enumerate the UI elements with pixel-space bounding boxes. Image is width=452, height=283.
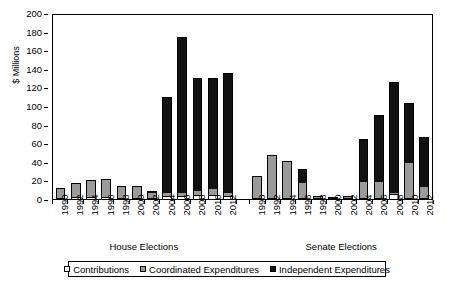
x-axis-label-slot: 2006 [372, 204, 387, 242]
bar-slot[interactable] [68, 15, 83, 199]
bar-segment-independent [404, 103, 414, 163]
bar-slot[interactable] [53, 15, 68, 199]
bar-slot[interactable] [175, 15, 190, 199]
stacked-bar[interactable] [177, 37, 187, 199]
legend-item[interactable]: Coordinated Expenditures [140, 264, 259, 275]
x-axis-tick-label: 2012 [228, 194, 238, 215]
stacked-bar[interactable] [162, 97, 172, 199]
x-axis-label-slot: 1998 [113, 204, 128, 242]
y-axis-tick-label: 100 [2, 102, 42, 112]
stacked-bar[interactable] [223, 73, 233, 199]
stacked-bar[interactable] [404, 103, 414, 199]
bar-segment-coordinated [267, 155, 277, 198]
bar-segment-coordinated [282, 161, 292, 198]
stacked-bar[interactable] [208, 78, 218, 199]
stacked-bar[interactable] [359, 139, 369, 199]
y-axis-tick-mark [44, 51, 48, 52]
y-axis-tick-mark [44, 144, 48, 145]
x-axis-label-slot: 2006 [174, 204, 189, 242]
stacked-bar[interactable] [193, 78, 203, 199]
bar-slot[interactable] [220, 15, 235, 199]
stacked-bar[interactable] [267, 155, 277, 199]
x-axis-label-slot: 2000 [326, 204, 341, 242]
y-axis-tick-label: 160 [2, 46, 42, 56]
y-axis-tick-mark [44, 126, 48, 127]
y-axis-tick-label: 20 [2, 177, 42, 187]
bar-slot[interactable] [356, 15, 371, 199]
x-axis-label-slot: 2008 [190, 204, 205, 242]
y-axis-tick-mark [44, 163, 48, 164]
legend-label: Coordinated Expenditures [149, 264, 259, 275]
bar-slot[interactable] [114, 15, 129, 199]
y-axis-tick-label: 60 [2, 139, 42, 149]
x-axis-label-slot: 2000 [128, 204, 143, 242]
legend-item[interactable]: Independent Expenditures [270, 264, 390, 275]
x-axis-label-slot: 1994 [280, 204, 295, 242]
bar-slot[interactable] [371, 15, 386, 199]
y-axis-tick-label: 140 [2, 65, 42, 75]
y-axis-tick-mark [44, 14, 48, 15]
bar-slot[interactable] [325, 15, 340, 199]
bar-slot[interactable] [386, 15, 401, 199]
white-square-icon [64, 266, 70, 272]
group-labels: House Elections Senate Elections [52, 241, 433, 255]
x-axis-label-slot: 2004 [356, 204, 371, 242]
legend-label: Contributions [73, 264, 129, 275]
x-axis-label-slot: 2010 [402, 204, 417, 242]
stacked-bar[interactable] [282, 161, 292, 199]
x-axis-label-slot: 1990 [52, 204, 67, 242]
y-axis-tick-label: 0 [2, 195, 42, 205]
x-axis-label-slot: 2004 [159, 204, 174, 242]
bar-slot[interactable] [249, 15, 264, 199]
bar-slot[interactable] [417, 15, 432, 199]
stacked-bar[interactable] [374, 115, 384, 199]
bar-slot[interactable] [160, 15, 175, 199]
chart-container: $ Millions 200180160140120100806040200 1… [0, 0, 452, 283]
bar-slot[interactable] [402, 15, 417, 199]
legend-item[interactable]: Contributions [64, 264, 129, 275]
bar-segment-independent [374, 115, 384, 183]
x-axis-label-slot: 1996 [98, 204, 113, 242]
bar-slot[interactable] [129, 15, 144, 199]
y-axis-tick-mark [44, 70, 48, 71]
y-axis-tick-label: 180 [2, 28, 42, 38]
bar-slot[interactable] [265, 15, 280, 199]
x-axis-labels: 1990199219941996199820002002200420062008… [52, 204, 433, 242]
y-axis-tick-mark [44, 107, 48, 108]
bar-segment-independent [359, 139, 369, 182]
bar-slot[interactable] [205, 15, 220, 199]
x-axis-label-slot: 2002 [341, 204, 356, 242]
bar-segment-independent [208, 78, 218, 189]
y-axis-tick-mark [44, 88, 48, 89]
x-axis-label-slot: 2002 [144, 204, 159, 242]
gray-square-icon [140, 266, 146, 272]
bar-slot[interactable] [310, 15, 325, 199]
bar-slot[interactable] [341, 15, 356, 199]
group-label-spacer [236, 241, 250, 255]
chart-legend: ContributionsCoordinated ExpendituresInd… [68, 261, 386, 277]
y-axis-tick-label: 40 [2, 158, 42, 168]
y-axis-tick-mark [44, 181, 48, 182]
stacked-bar[interactable] [389, 82, 399, 199]
bar-slot[interactable] [280, 15, 295, 199]
bar-segment-independent [193, 78, 203, 191]
stacked-bar[interactable] [419, 137, 429, 199]
bar-slot[interactable] [295, 15, 310, 199]
x-axis-label-slot: 1996 [295, 204, 310, 242]
x-axis-label-group: 1990199219941996199820002002200420062008… [52, 204, 236, 242]
bar-slot[interactable] [190, 15, 205, 199]
bar-segment-independent [177, 37, 187, 193]
bar-slot[interactable] [144, 15, 159, 199]
bar-segment-independent [162, 97, 172, 193]
bar-segment-independent [298, 169, 308, 183]
group-label-house: House Elections [52, 241, 236, 255]
black-square-icon [270, 266, 276, 272]
bar-segment-coordinated [404, 163, 414, 197]
x-axis-label-slot: 2008 [387, 204, 402, 242]
x-axis-label-slot: 1992 [265, 204, 280, 242]
legend-label: Independent Expenditures [279, 264, 390, 275]
y-axis-ticks: 200180160140120100806040200 [0, 14, 48, 200]
bar-slot[interactable] [83, 15, 98, 199]
x-axis-label-slot: 1992 [67, 204, 82, 242]
bar-slot[interactable] [99, 15, 114, 199]
